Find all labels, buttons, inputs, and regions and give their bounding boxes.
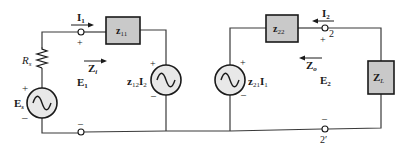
e1-minus: – xyxy=(77,118,84,129)
terminal-2-prime-label: 2′ xyxy=(320,134,327,145)
two-port-circuit-diagram: Rs + Es – I1 + – Zi E1 z11 + – z12I2 + –… xyxy=(0,0,406,154)
z21i1-label: z21I1 xyxy=(248,75,268,89)
i1-arrowhead-icon xyxy=(88,23,94,28)
e2-plus: + xyxy=(320,34,326,45)
e1-label: E1 xyxy=(77,76,88,90)
e1-plus: + xyxy=(77,37,83,48)
z12i2-plus: + xyxy=(150,58,156,69)
es-plus: + xyxy=(22,82,28,94)
z12i2-label: z12I2 xyxy=(127,75,147,89)
zo-arrowhead-icon xyxy=(299,56,305,61)
terminal-2-prime xyxy=(322,126,328,132)
e2-minus: – xyxy=(321,113,328,124)
terminal-2-label: 2 xyxy=(329,28,334,39)
wire-dep-right-to-z22 xyxy=(230,28,266,65)
z12i2-minus: – xyxy=(150,90,157,101)
i2-arrowhead-icon xyxy=(312,19,318,24)
e2-label: E2 xyxy=(320,74,331,88)
i2-label: I2 xyxy=(322,7,330,21)
wire-es-bottom xyxy=(42,118,78,133)
terminal-2 xyxy=(322,25,328,31)
i1-label: I1 xyxy=(77,11,85,25)
z21i1-plus: + xyxy=(240,57,246,68)
rs-label: Rs xyxy=(21,54,32,68)
zi-arrowhead-icon xyxy=(101,59,107,64)
wire-bottom xyxy=(84,129,322,132)
es-label: Es xyxy=(14,97,24,111)
wire-left-top xyxy=(42,32,78,47)
zo-label: Zo xyxy=(306,59,317,73)
z21i1-minus: – xyxy=(240,89,247,100)
terminal-1 xyxy=(78,29,84,35)
resistor-rs xyxy=(37,47,47,68)
wire-terminal2-to-zl xyxy=(328,28,381,61)
zi-label: Zi xyxy=(88,62,97,76)
es-minus: – xyxy=(21,111,28,123)
terminal-1-prime xyxy=(78,129,84,135)
wire-bottom-right xyxy=(328,94,381,129)
